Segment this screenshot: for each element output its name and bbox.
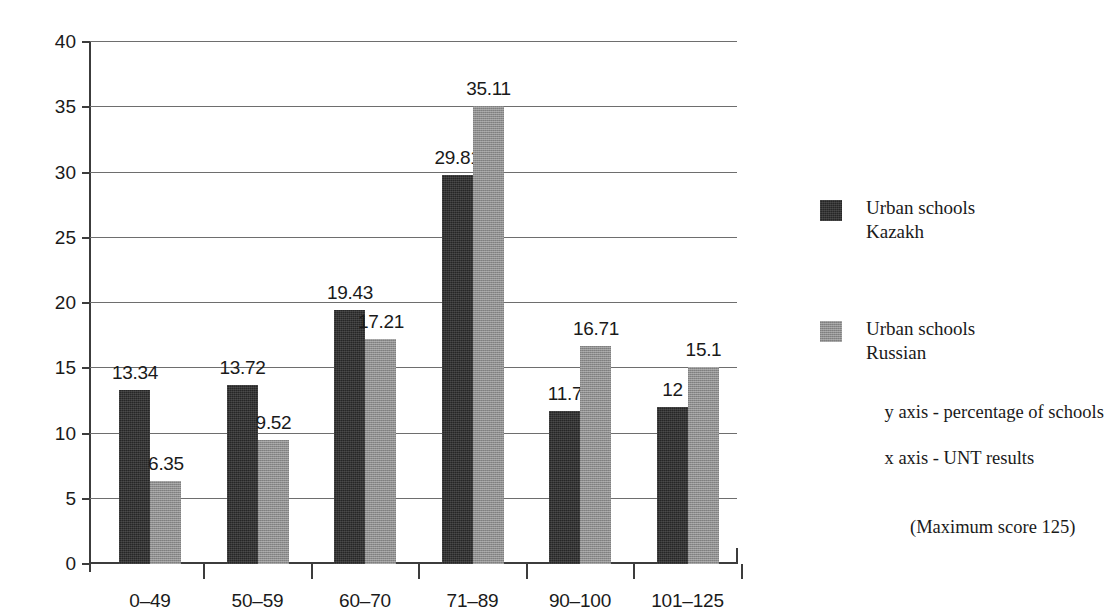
gridline-40 [90,41,737,42]
axis-note-y: y axis - percentage of schools [885,402,1104,422]
gridline-30 [90,172,737,173]
gridline-10 [90,433,737,434]
y-tick-label-15: 15 [0,357,90,379]
x-tick-mark [526,564,528,579]
axis-description-note: y axis - percentage of schools x axis - … [866,378,1104,585]
bar-value-label: 15.1 [673,339,735,361]
legend-label-russian-line1: Urban schools [866,318,975,339]
plot-area: 13.346.3513.729.5219.4317.2129.8135.1111… [90,42,737,564]
y-tick-label-35: 35 [0,96,90,118]
bar-group: 29.8135.11 [442,42,504,564]
x-tick-mark [418,564,420,579]
gridline-35 [90,106,737,107]
bar-chart-figure: 0510152025303540 13.346.3513.729.5219.43… [0,0,1116,610]
bar [580,346,611,564]
bar-group: 19.4317.21 [334,42,396,564]
gridline-15 [90,367,737,368]
bar-value-label: 6.35 [135,453,197,475]
legend-label-kazakh-line2: Kazakh [866,220,975,244]
x-tick-mark [203,564,205,579]
legend-label-kazakh-line1: Urban schools [866,197,975,218]
legend-swatch-russian-icon [820,321,842,342]
gridline-5 [90,498,737,499]
y-tick-label-40: 40 [0,31,90,53]
x-tick-mark [633,564,635,579]
y-tick-label-5: 5 [0,488,90,510]
y-tick-label-10: 10 [0,423,90,445]
bar [258,440,289,564]
legend-swatch-kazakh-icon [820,200,842,221]
axis-note-x-detail: (Maximum score 125) [866,516,1104,539]
bar-value-label: 16.71 [565,318,627,340]
bar [688,367,719,564]
legend-label-russian: Urban schools Russian [866,317,975,365]
bar [334,310,365,564]
gridline-25 [90,237,737,238]
bar [657,407,688,564]
legend-label-kazakh: Urban schools Kazakh [866,196,975,244]
bar-value-label: 13.72 [212,357,274,379]
bar [119,390,150,564]
y-tick-label-25: 25 [0,227,90,249]
bar [150,481,181,564]
bar-group: 11.716.71 [549,42,611,564]
gridline-0 [90,562,737,564]
legend-item-kazakh: Urban schools Kazakh [820,196,1110,244]
bar-value-label: 35.11 [458,78,520,100]
axis-note-x: x axis - UNT results [885,448,1035,468]
y-tick-label-0: 0 [0,553,90,575]
bar [549,411,580,564]
bar-group: 1215.1 [657,42,719,564]
bar [442,175,473,564]
gridline-20 [90,302,737,303]
y-tick-label-30: 30 [0,162,90,184]
x-tick-mark [741,564,743,579]
chart-legend: Urban schools Kazakh Urban schools Russi… [820,196,1110,365]
bar-group: 13.729.52 [227,42,289,564]
bar [473,106,504,564]
legend-item-russian: Urban schools Russian [820,317,1110,365]
bar-value-label: 19.43 [319,282,381,304]
bar-value-label: 13.34 [104,362,166,384]
bar-value-label: 9.52 [243,412,305,434]
legend-label-russian-line2: Russian [866,341,975,365]
bar [365,339,396,564]
bar-value-label: 17.21 [350,311,412,333]
bar-group: 13.346.35 [119,42,181,564]
x-category-label: 101–125 [618,590,758,610]
y-tick-label-20: 20 [0,292,90,314]
x-tick-mark [311,564,313,579]
